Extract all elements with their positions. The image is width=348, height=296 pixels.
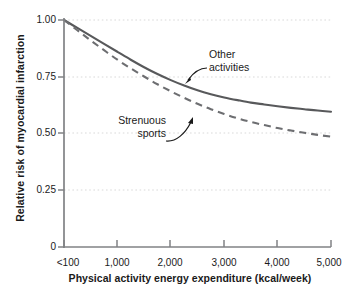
y-tick-label-0.25: 0.25 [22,185,56,195]
y-tick-label-1.00-wrap: 1.00 [22,15,56,25]
y-tick-label-0-wrap: 0 [22,242,56,252]
series-line-other-activities [64,20,331,112]
arrow-head-other-activities [185,77,191,84]
y-tick-label-1.00: 1.00 [22,15,56,25]
annotation-other-activities-line1: Other [209,48,249,61]
x-tick-label-5000: 5,000 [316,257,341,268]
y-tick-label-0: 0 [22,242,56,252]
y-tick-label-0.25-wrap: 0.25 [22,185,56,195]
arrow-head-strenuous-sports [188,117,193,124]
annotation-strenuous-sports-line1: Strenuous [62,114,166,127]
x-tick-marks [64,240,331,247]
x-tick-label-3000-wrap: 3,000 [194,252,254,270]
annotation-strenuous-sports-line2: sports [62,127,166,140]
y-tick-label-0.75-wrap: 0.75 [22,72,56,82]
x-tick-label-4000: 4,000 [264,257,289,268]
x-tick-label-3000: 3,000 [211,257,236,268]
annotation-other-activities-line2: activities [209,61,249,74]
chart-figure: Relative risk of myocardial infarction 1… [0,0,348,296]
annotation-other-activities: Other activities [209,48,249,74]
y-tick-label-0.50: 0.50 [22,128,56,138]
x-tick-label-2000-wrap: 2,000 [140,252,200,270]
x-tick-label-4000-wrap: 4,000 [247,252,307,270]
x-tick-label-5000-wrap: 5,000 [299,252,348,270]
y-tick-label-0.50-wrap: 0.50 [22,128,56,138]
gridlines [64,20,331,190]
x-axis-title: Physical activity energy expenditure (kc… [40,272,340,284]
arrow-strenuous-sports [166,122,191,141]
x-tick-label-lt100: <100 [57,257,80,268]
x-tick-label-2000: 2,000 [157,257,182,268]
x-tick-label-1000-wrap: 1,000 [87,252,147,270]
arrow-other-activities [188,68,207,80]
x-tick-label-1000: 1,000 [104,257,129,268]
y-tick-label-0.75: 0.75 [22,72,56,82]
annotation-strenuous-sports: Strenuous sports [62,114,166,140]
